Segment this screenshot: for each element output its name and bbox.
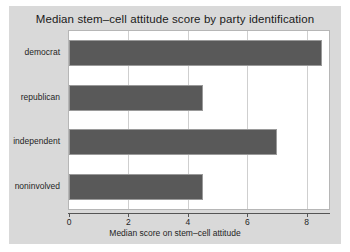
bar-row (69, 129, 329, 155)
chart-title: Median stem–cell attitude score by party… (9, 13, 341, 25)
x-tick-label-0: 0 (67, 217, 72, 227)
x-tick-label-8: 8 (304, 217, 309, 227)
y-axis-label-independent: independent (13, 128, 60, 154)
bar-democrat (69, 40, 322, 66)
bar-row (69, 85, 329, 111)
x-axis-title: Median score on stem–cell attitude (9, 228, 341, 238)
x-tick-label-2: 2 (126, 217, 131, 227)
x-tick-label-6: 6 (245, 217, 250, 227)
bar-row (69, 40, 329, 66)
chart-figure: Median stem–cell attitude score by party… (9, 6, 341, 244)
y-axis-category-labels: democratrepublicanindependentnoninvolved (9, 30, 64, 210)
y-axis-label-democrat: democrat (25, 39, 60, 65)
bar-noninvolved (69, 174, 203, 200)
bar-republican (69, 85, 203, 111)
y-axis-label-republican: republican (21, 84, 60, 110)
bar-series (69, 31, 329, 209)
plot-area (68, 30, 330, 210)
bar-independent (69, 129, 277, 155)
x-axis-line (68, 213, 330, 214)
bar-row (69, 174, 329, 200)
x-tick-label-4: 4 (185, 217, 190, 227)
y-axis-label-noninvolved: noninvolved (15, 173, 60, 199)
